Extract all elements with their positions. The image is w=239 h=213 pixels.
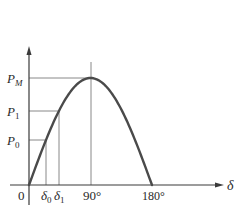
origin-label: 0 — [18, 188, 25, 203]
d1-label: δ1 — [54, 188, 65, 205]
y-axis-arrow-icon — [27, 46, 32, 55]
pm-label: PM — [6, 71, 23, 88]
axes — [10, 52, 218, 205]
power-angle-diagram: PM P1 P0 0 δ0 δ1 90° 180° δ — [0, 0, 239, 213]
deg180-label: 180° — [142, 189, 165, 203]
power-curve — [29, 78, 152, 185]
p1-label: P1 — [6, 104, 19, 121]
delta-axis-label: δ — [227, 178, 234, 193]
deg90-label: 90° — [83, 188, 101, 203]
x-axis-arrow-icon — [215, 183, 224, 188]
p0-label: P0 — [6, 133, 20, 150]
d0-label: δ0 — [41, 188, 52, 205]
